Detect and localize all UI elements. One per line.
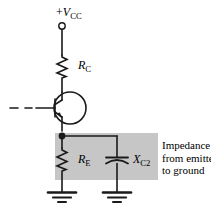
- supply-terminal-circle: [59, 23, 65, 29]
- annotation-line-2: from emitter: [162, 152, 211, 165]
- supply-subscript: CC: [70, 11, 82, 21]
- supply-voltage-label: +VCC: [56, 6, 82, 21]
- capacitor-reactance-label: XC2: [133, 153, 150, 168]
- circuit-schematic-svg: [0, 0, 211, 218]
- transistor-envelope-circle: [54, 92, 86, 124]
- emitter-resistor-label: RE: [78, 153, 91, 168]
- re-subscript: E: [85, 158, 90, 168]
- annotation-line-3: to ground: [162, 164, 211, 177]
- resistor-rc-symbol: [57, 55, 67, 92]
- supply-prefix: +: [56, 5, 63, 19]
- circuit-diagram: +VCC RC RE XC2 Impedance from emitter to…: [0, 0, 211, 218]
- xc2-subscript: C2: [140, 158, 150, 168]
- impedance-annotation: Impedance from emitter to ground: [162, 139, 211, 177]
- collector-resistor-label: RC: [78, 59, 91, 74]
- annotation-line-1: Impedance: [162, 139, 211, 152]
- emitter-junction-dot: [59, 133, 66, 140]
- rc-subscript: C: [85, 64, 91, 74]
